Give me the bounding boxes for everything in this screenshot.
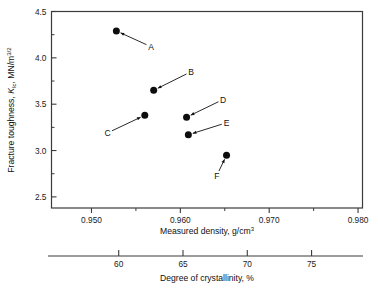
x-tick-label: 0.970 bbox=[259, 215, 280, 225]
point-label-b: B bbox=[188, 67, 194, 77]
point-label-a: A bbox=[148, 42, 154, 52]
y-tick-label: 3.5 bbox=[35, 99, 47, 109]
y-tick-label: 4.5 bbox=[35, 7, 47, 17]
y-tick-label: 3.0 bbox=[35, 146, 47, 156]
point-label-f: F bbox=[214, 171, 219, 181]
point-label-c: C bbox=[104, 128, 110, 138]
secondary-x-tick-label: 70 bbox=[243, 259, 253, 269]
x-axis-label: Measured density, g/cm3 bbox=[160, 226, 255, 236]
y-axis-ticks bbox=[52, 12, 57, 197]
plot-frame bbox=[52, 12, 363, 209]
y-tick-label: 2.5 bbox=[35, 192, 47, 202]
leader-line-d bbox=[191, 102, 219, 115]
data-point-a bbox=[113, 27, 120, 34]
point-label-d: D bbox=[220, 95, 226, 105]
leader-lines-layer bbox=[112, 33, 225, 171]
data-point-f bbox=[223, 152, 230, 159]
leader-line-a bbox=[121, 33, 147, 45]
x-axis-tick-labels: 0.9500.9600.9700.980 bbox=[81, 215, 369, 225]
data-point-c bbox=[141, 112, 148, 119]
chart-figure: 2.53.03.54.04.5 0.9500.9600.9700.980 ABC… bbox=[0, 0, 378, 290]
leader-arrowhead-e bbox=[193, 131, 197, 134]
secondary-x-tick-label: 60 bbox=[114, 259, 124, 269]
y-tick-label: 4.0 bbox=[35, 53, 47, 63]
data-points-layer bbox=[113, 27, 230, 158]
secondary-axis-ticks bbox=[119, 250, 312, 256]
secondary-x-tick-label: 75 bbox=[307, 259, 317, 269]
x-axis-ticks bbox=[91, 208, 358, 213]
x-tick-label: 0.960 bbox=[170, 215, 191, 225]
data-point-d bbox=[183, 114, 190, 121]
y-axis-label: Fracture toughness, KIc, MN/m3/2 bbox=[6, 47, 18, 173]
secondary-x-axis-label: Degree of crystallinity, % bbox=[160, 273, 254, 283]
secondary-x-tick-label: 65 bbox=[178, 259, 188, 269]
x-tick-label: 0.980 bbox=[348, 215, 369, 225]
point-labels-layer: ABCDEF bbox=[104, 42, 229, 181]
point-label-e: E bbox=[224, 118, 230, 128]
leader-line-e bbox=[193, 124, 222, 133]
leader-line-c bbox=[112, 117, 141, 131]
x-tick-label: 0.950 bbox=[81, 215, 102, 225]
y-axis-tick-labels: 2.53.03.54.04.5 bbox=[35, 7, 47, 202]
scatter-plot-svg: 2.53.03.54.04.5 0.9500.9600.9700.980 ABC… bbox=[0, 0, 378, 290]
leader-line-b bbox=[158, 74, 187, 88]
secondary-axis-tick-labels: 60657075 bbox=[114, 259, 316, 269]
data-point-b bbox=[150, 87, 157, 94]
data-point-e bbox=[185, 131, 192, 138]
